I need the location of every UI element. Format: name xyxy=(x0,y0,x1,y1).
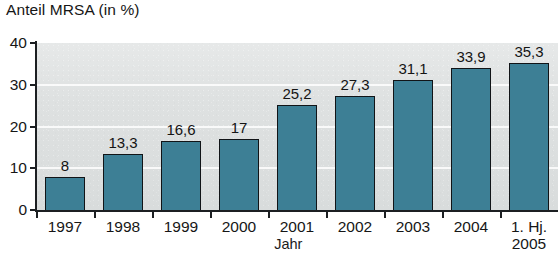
x-axis-category-label-line: 2001 xyxy=(280,218,314,235)
x-tick-mark xyxy=(268,211,270,218)
x-axis-category-label-line: 2000 xyxy=(222,218,256,235)
bar-value-label: 35,3 xyxy=(500,44,558,59)
y-tick-label: 40 xyxy=(1,35,27,51)
bar-value-label: 25,2 xyxy=(268,86,326,101)
x-axis-category-label: 1. Hj.2005 xyxy=(500,218,558,252)
x-axis-category-label: 2001 xyxy=(268,218,326,235)
bar xyxy=(219,139,259,210)
x-axis-category-label-line: 2003 xyxy=(396,218,430,235)
bar-value-label: 13,3 xyxy=(94,135,152,150)
x-axis-category-label: 1999 xyxy=(152,218,210,235)
x-axis-category-label: 2004 xyxy=(442,218,500,235)
x-tick-mark xyxy=(326,211,328,218)
mrsa-bar-chart-figure: Anteil MRSA (in %) 010203040 813,316,617… xyxy=(0,0,558,254)
bar xyxy=(45,177,85,210)
x-axis-category-label: 2002 xyxy=(326,218,384,235)
chart-title: Anteil MRSA (in %) xyxy=(6,1,140,19)
bar xyxy=(451,68,491,210)
bar xyxy=(509,63,549,210)
y-tick-mark xyxy=(30,84,36,86)
x-tick-mark xyxy=(36,211,38,218)
bar-value-label: 17 xyxy=(210,120,268,135)
x-tick-mark xyxy=(152,211,154,218)
y-tick-label: 20 xyxy=(1,119,27,135)
x-axis-line xyxy=(35,210,558,212)
x-axis-title: Jahr xyxy=(228,236,348,252)
x-axis-category-label-line: 1998 xyxy=(106,218,140,235)
x-axis-category-label: 1997 xyxy=(36,218,94,235)
x-tick-mark xyxy=(384,211,386,218)
y-tick-mark xyxy=(30,126,36,128)
x-axis-category-label-line: 2002 xyxy=(338,218,372,235)
x-axis-category-label: 2000 xyxy=(210,218,268,235)
plot-area xyxy=(36,43,558,210)
bar-value-label: 27,3 xyxy=(326,77,384,92)
x-axis-category-label-line: 2005 xyxy=(500,235,558,252)
x-axis-category-label-line: 1997 xyxy=(48,218,82,235)
x-axis-category-label-line: 1. Hj. xyxy=(511,218,547,235)
y-tick-label: 30 xyxy=(1,77,27,93)
bar xyxy=(103,154,143,210)
bar-value-label: 33,9 xyxy=(442,49,500,64)
x-axis-category-label-line: 1999 xyxy=(164,218,198,235)
bar-value-label: 8 xyxy=(36,158,94,173)
bar xyxy=(277,105,317,210)
bar xyxy=(393,80,433,210)
x-tick-mark xyxy=(94,211,96,218)
x-axis-category-label: 1998 xyxy=(94,218,152,235)
y-tick-mark xyxy=(30,42,36,44)
x-tick-mark xyxy=(500,211,502,218)
bar xyxy=(335,96,375,210)
y-tick-label: 0 xyxy=(1,202,27,218)
x-tick-mark xyxy=(442,211,444,218)
x-axis-category-label-line: 2004 xyxy=(454,218,488,235)
bar xyxy=(161,141,201,210)
x-axis-category-label: 2003 xyxy=(384,218,442,235)
y-tick-label: 10 xyxy=(1,160,27,176)
bar-value-label: 31,1 xyxy=(384,61,442,76)
bar-value-label: 16,6 xyxy=(152,122,210,137)
x-tick-mark xyxy=(210,211,212,218)
